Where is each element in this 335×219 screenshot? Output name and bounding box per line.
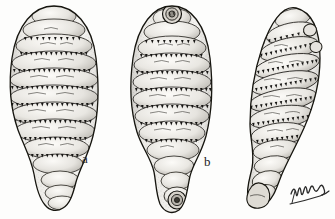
engraver-signature: Hulss [289,180,335,210]
illustration-plate: a b Hulss [0,0,335,219]
signature-flourish [289,180,335,210]
larvae-engraving [0,0,335,219]
figure-label-a: a [82,152,88,165]
figure-label-b: b [204,155,211,168]
